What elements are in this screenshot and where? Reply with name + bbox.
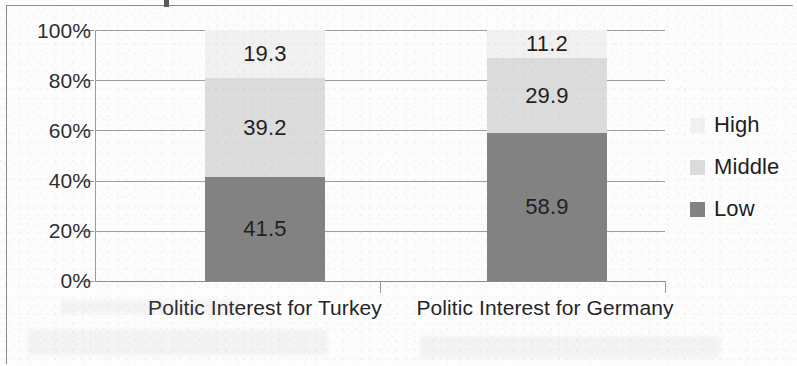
x-axis-category-turkey: Politic Interest for Turkey	[115, 296, 415, 320]
legend-item-middle[interactable]: Middle	[690, 146, 779, 188]
bar-value-germany-high: 11.2	[526, 33, 568, 55]
bar-segment-turkey-middle[interactable]: 39.2	[205, 78, 325, 177]
bar-segment-turkey-high[interactable]: 19.3	[205, 30, 325, 78]
y-axis-label-40: 40%	[5, 169, 91, 193]
legend-label-high: High	[714, 112, 760, 138]
legend-label-middle: Middle	[714, 154, 779, 180]
bar-value-germany-low: 58.9	[525, 196, 569, 218]
bar-value-turkey-high: 19.3	[243, 43, 287, 65]
legend-swatch-high-icon	[690, 118, 705, 133]
scan-smudge-left	[28, 330, 328, 356]
bar-germany[interactable]: 11.2 29.9 58.9	[487, 30, 607, 281]
y-axis-line	[95, 30, 96, 281]
legend-item-high[interactable]: High	[690, 104, 779, 146]
y-axis-label-60: 60%	[5, 119, 91, 143]
chart-legend: High Middle Low	[690, 104, 779, 230]
legend-swatch-middle-icon	[690, 160, 705, 175]
bar-segment-germany-middle[interactable]: 29.9	[487, 58, 607, 133]
y-axis-label-20: 20%	[5, 219, 91, 243]
x-axis-tick-end	[665, 281, 666, 293]
bar-value-turkey-middle: 39.2	[243, 117, 287, 139]
x-axis-tick-divider	[380, 281, 381, 293]
x-axis-category-germany: Politic Interest for Germany	[395, 296, 695, 320]
bar-turkey[interactable]: 19.3 39.2 41.5	[205, 30, 325, 281]
chart-screenshot: 100% 80% 60% 40% 20% 0% 19.3 39.2 41.5	[0, 0, 797, 366]
legend-label-low: Low	[714, 196, 755, 222]
plot-area: 19.3 39.2 41.5 11.2 29.9 58.9	[95, 30, 665, 281]
y-axis-label-80: 80%	[5, 69, 91, 93]
y-axis-label-100: 100%	[5, 19, 91, 43]
bar-segment-germany-low[interactable]: 58.9	[487, 133, 607, 281]
bar-segment-turkey-low[interactable]: 41.5	[205, 177, 325, 281]
clipped-title-artifact	[164, 0, 169, 7]
chart-frame-top-border	[6, 5, 793, 6]
y-axis-label-0: 0%	[5, 269, 91, 293]
legend-swatch-low-icon	[690, 202, 705, 217]
bar-segment-germany-high[interactable]: 11.2	[487, 30, 607, 58]
bar-value-turkey-low: 41.5	[243, 218, 287, 240]
legend-item-low[interactable]: Low	[690, 188, 779, 230]
scan-smudge-right	[420, 336, 720, 358]
bar-value-germany-middle: 29.9	[525, 85, 569, 107]
